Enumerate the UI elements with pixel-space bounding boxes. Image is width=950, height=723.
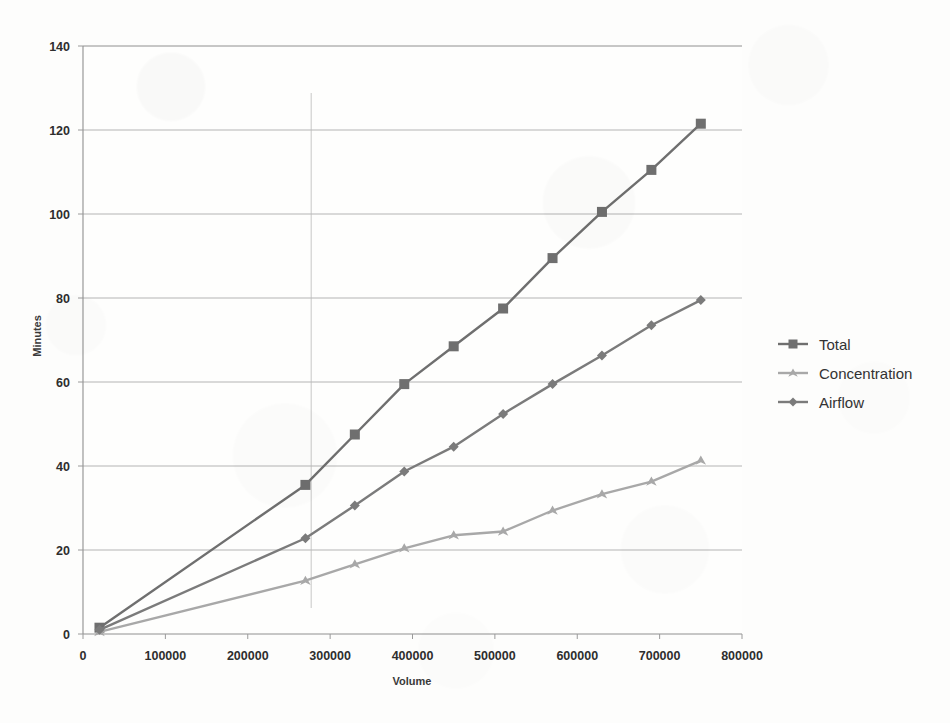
data-point-marker-square: [597, 207, 607, 217]
x-axis-tick-label: 300000: [309, 649, 351, 663]
data-point-marker-square: [350, 430, 360, 440]
y-axis-tick-label: 80: [56, 292, 70, 306]
y-axis-tick-labels: 020406080100120140: [49, 40, 70, 642]
y-axis-ticks: [78, 46, 83, 634]
legend-item-label: Total: [819, 336, 851, 353]
data-point-marker-square: [300, 480, 310, 490]
x-axis-tick-label: 100000: [145, 649, 187, 663]
legend-item-airflow[interactable]: Airflow: [778, 394, 864, 411]
x-axis-title: Volume: [393, 675, 432, 687]
chart-page: 020406080100120140 010000020000030000040…: [0, 0, 950, 723]
x-axis-tick-label: 200000: [227, 649, 269, 663]
data-point-marker-square: [399, 379, 409, 389]
y-axis-tick-label: 100: [49, 208, 70, 222]
legend-item-label: Airflow: [819, 394, 864, 411]
x-axis-tick-label: 400000: [392, 649, 434, 663]
x-axis-tick-label: 0: [80, 649, 87, 663]
x-axis-ticks: [83, 634, 742, 639]
y-axis-tick-label: 40: [56, 460, 70, 474]
legend-item-label: Concentration: [819, 365, 912, 382]
x-axis-tick-label: 800000: [721, 649, 763, 663]
legend-item-concentration[interactable]: Concentration: [778, 365, 912, 382]
x-axis-tick-label: 500000: [474, 649, 516, 663]
y-axis-tick-label: 60: [56, 376, 70, 390]
chart-legend: TotalConcentrationAirflow: [778, 336, 912, 411]
data-point-marker-square: [696, 119, 706, 129]
x-axis-tick-label: 600000: [556, 649, 598, 663]
y-axis-tick-label: 0: [63, 628, 70, 642]
x-axis-tick-label: 700000: [639, 649, 681, 663]
y-axis-tick-label: 140: [49, 40, 70, 54]
data-point-marker-square: [548, 253, 558, 263]
y-axis-tick-label: 120: [49, 124, 70, 138]
data-point-marker-diamond: [789, 398, 798, 407]
y-axis-title: Minutes: [31, 315, 43, 357]
data-point-marker-square: [498, 304, 508, 314]
line-chart: 020406080100120140 010000020000030000040…: [0, 0, 950, 723]
x-axis-tick-labels: 0100000200000300000400000500000600000700…: [80, 649, 763, 663]
data-point-marker-square: [449, 341, 459, 351]
y-axis-tick-label: 20: [56, 544, 70, 558]
legend-item-total[interactable]: Total: [778, 336, 851, 353]
data-point-marker-square: [646, 165, 656, 175]
data-point-marker-square: [789, 340, 798, 349]
